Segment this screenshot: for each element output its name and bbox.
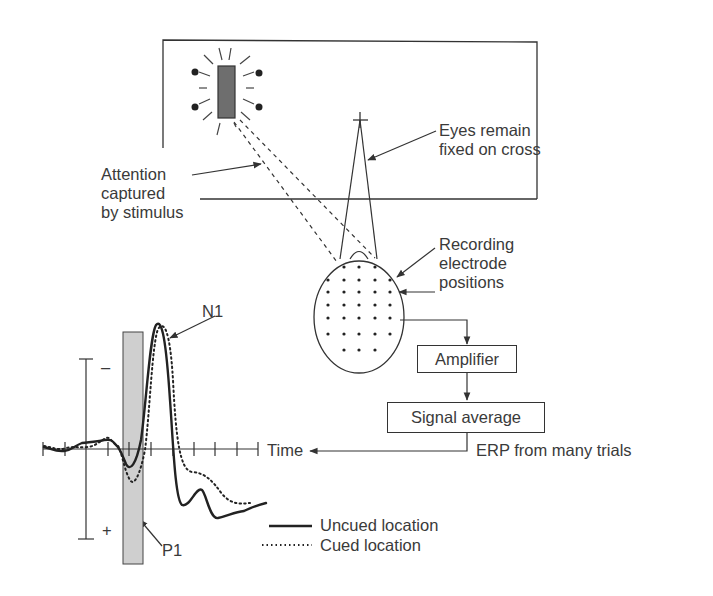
eyes-fixed-label: Eyes remain fixed on cross bbox=[439, 121, 541, 159]
attention-label-line-1: Attention bbox=[101, 165, 184, 184]
attention-line-of-sight bbox=[234, 120, 375, 262]
display-screen-frame bbox=[163, 40, 537, 199]
legend-swatches bbox=[262, 526, 312, 545]
eyes-label-line-2: fixed on cross bbox=[439, 140, 541, 159]
uncued-location-waveform bbox=[44, 324, 266, 518]
legend-uncued-label: Uncued location bbox=[320, 516, 438, 535]
electrode-label-line-1: Recording bbox=[439, 235, 514, 254]
positive-polarity-label: + bbox=[102, 521, 112, 540]
time-axis-label: Time bbox=[267, 441, 303, 460]
negative-polarity-label: – bbox=[101, 358, 110, 377]
head-electrode-map bbox=[314, 252, 404, 374]
attention-captured-label: Attention captured by stimulus bbox=[101, 165, 184, 222]
n1-label: N1 bbox=[202, 302, 223, 321]
signal-average-box: Signal average bbox=[387, 402, 545, 433]
erp-from-trials-label: ERP from many trials bbox=[476, 441, 632, 460]
cued-location-waveform bbox=[44, 326, 250, 504]
attention-erp-diagram bbox=[0, 0, 713, 596]
electrode-label-line-3: positions bbox=[439, 273, 514, 292]
flashing-stimulus-icon bbox=[192, 48, 263, 135]
annotation-arrows bbox=[140, 131, 436, 546]
attention-label-line-2: captured bbox=[101, 184, 184, 203]
p1-label: P1 bbox=[162, 541, 182, 560]
eyes-label-line-1: Eyes remain bbox=[439, 121, 541, 140]
legend-cued-label: Cued location bbox=[320, 536, 421, 555]
attention-label-line-3: by stimulus bbox=[101, 203, 184, 222]
amplifier-box: Amplifier bbox=[417, 345, 517, 373]
electrode-label-line-2: electrode bbox=[439, 254, 514, 273]
recording-electrode-label: Recording electrode positions bbox=[439, 235, 514, 292]
gaze-cone bbox=[340, 120, 377, 259]
